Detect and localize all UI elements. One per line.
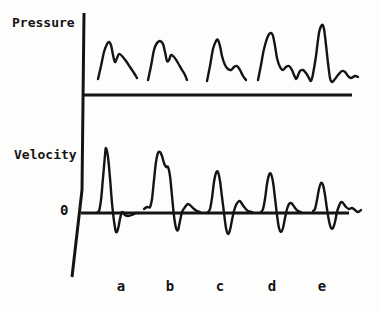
pressure-waveform-a <box>98 42 137 79</box>
waveform-figure: Pressure Velocity 0 a b c d e <box>0 0 380 311</box>
velocity-waveform-e <box>313 183 361 229</box>
pressure-waveform-d <box>258 33 296 80</box>
pressure-waveform-c <box>207 40 246 81</box>
velocity-waveform-c <box>208 171 252 234</box>
beat-label-b: b <box>166 279 174 293</box>
waveform-plot <box>0 0 380 311</box>
beat-label-d: d <box>268 279 276 293</box>
beat-label-c: c <box>216 279 224 293</box>
pressure-waveform-e <box>297 25 358 82</box>
beat-label-e: e <box>318 279 326 293</box>
pressure-waveform-b <box>148 41 187 80</box>
velocity-waveform-b <box>144 152 200 231</box>
beat-label-a: a <box>117 279 125 293</box>
velocity-waveform-d <box>261 173 301 232</box>
shared-vertical-axis <box>72 13 84 277</box>
velocity-waveform-a <box>96 148 139 232</box>
